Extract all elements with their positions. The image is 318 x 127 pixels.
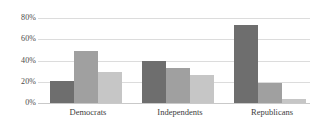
bar-republicans-series-3 (282, 99, 306, 103)
xtick-label-independents: Independents (142, 108, 218, 117)
axis-baseline (38, 103, 310, 104)
bar-democrats-series-3 (98, 72, 122, 103)
bar-republicans-series-2 (258, 83, 282, 103)
bar-chart: 80% 60% 40% 20% 0% Democrats Independent… (0, 0, 318, 127)
bar-independents-series-3 (190, 75, 214, 103)
bar-independents-series-1 (142, 61, 166, 104)
bar-group-republicans (234, 8, 310, 103)
bar-group-democrats (50, 8, 126, 103)
bar-democrats-series-2 (74, 51, 98, 103)
bar-democrats-series-1 (50, 81, 74, 103)
bar-independents-series-2 (166, 68, 190, 103)
bar-group-independents (142, 8, 218, 103)
xtick-label-democrats: Democrats (50, 108, 126, 117)
plot-area (38, 8, 310, 103)
bar-republicans-series-1 (234, 25, 258, 103)
ytick-label-40: 40% (2, 57, 36, 65)
ytick-label-0: 0% (2, 99, 36, 107)
xtick-label-republicans: Republicans (234, 108, 310, 117)
ytick-label-20: 20% (2, 78, 36, 86)
ytick-label-80: 80% (2, 14, 36, 22)
ytick-label-60: 60% (2, 35, 36, 43)
